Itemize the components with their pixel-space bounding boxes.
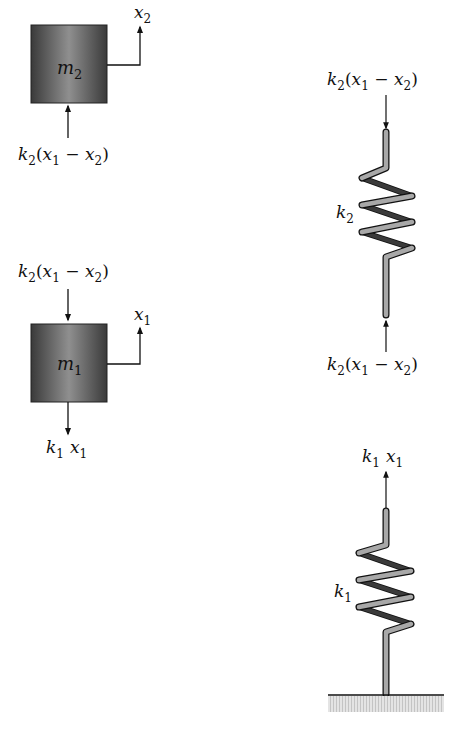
force-k1-label-spring: k1x1: [362, 446, 403, 470]
free-body-diagram: m2 x2 k2(x1 − x2) k2(x1 − x2) m1 x1 k1x1: [0, 0, 452, 732]
displacement-x2-arrow: [107, 27, 140, 65]
spring-k1-label: k1: [334, 581, 352, 605]
displacement-x2-label: x2: [134, 2, 151, 26]
spring-k2-label: k2: [336, 202, 354, 226]
force-k2-label-spring-top: k2(x1 − x2): [327, 69, 418, 93]
ground-hatch: [328, 696, 444, 712]
force-k2-label-m1: k2(x1 − x2): [18, 261, 109, 285]
force-k2-label-m2: k2(x1 − x2): [18, 144, 109, 168]
spring-k2-group: k2(x1 − x2) k2 k2(x1 − x2): [327, 69, 418, 378]
force-k1-label-m1: k1x1: [46, 437, 87, 461]
spring-k1-group: k1x1 k1: [328, 446, 444, 712]
displacement-x1-label: x1: [134, 304, 151, 328]
displacement-x1-arrow: [107, 328, 140, 364]
mass-m2-group: m2 x2 k2(x1 − x2): [18, 2, 151, 168]
force-k2-label-spring-bottom: k2(x1 − x2): [327, 354, 418, 378]
mass-m1-group: k2(x1 − x2) m1 x1 k1x1: [18, 261, 151, 461]
